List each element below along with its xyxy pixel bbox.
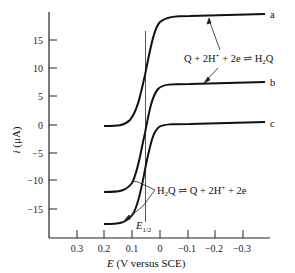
y-axis-title: i (μA): [10, 126, 23, 153]
x-tick-label: 0.1: [126, 243, 139, 254]
x-tick-label: 0.3: [71, 243, 84, 254]
y-tick-label: −10: [27, 175, 43, 186]
x-ticks: [77, 230, 243, 238]
e-half-label: E1/2: [135, 220, 152, 234]
y-ticks: [49, 40, 57, 209]
y-tick-label: −15: [27, 204, 43, 215]
series-label-c: c: [270, 118, 275, 129]
y-tick-label: 10: [33, 63, 43, 74]
y-tick-label: −5: [32, 148, 43, 159]
voltammogram-chart: 15 10 5 0 −5 −10 −15 0.3 0.2 0.1 0 −0.1 …: [0, 0, 295, 273]
series-label-b: b: [270, 77, 275, 88]
x-axis-title: E (V versus SCE): [106, 257, 186, 270]
x-tick-label: −0.1: [178, 243, 196, 254]
curve-b: [104, 82, 265, 192]
curve-c: [104, 122, 265, 224]
annotation-reduction: Q + 2H+ + 2e ⇌ H2Q: [184, 52, 274, 66]
x-tick-label: −0.2: [205, 243, 223, 254]
x-tick-labels: 0.3 0.2 0.1 0 −0.1 −0.2 −0.3: [71, 243, 251, 254]
curve-a: [104, 14, 265, 126]
y-tick-label: 5: [38, 91, 43, 102]
annotation-oxidation: H2Q ⇌ Q + 2H+ + 2e: [157, 184, 247, 198]
annotation-reduction-arrows: [204, 18, 220, 83]
y-tick-label: 0: [38, 120, 43, 131]
x-tick-label: 0.2: [98, 243, 111, 254]
y-tick-labels: 15 10 5 0 −5 −10 −15: [27, 35, 43, 215]
x-tick-label: −0.3: [233, 243, 251, 254]
x-tick-label: 0: [158, 243, 163, 254]
y-tick-label: 15: [33, 35, 43, 46]
series-label-a: a: [270, 9, 275, 20]
